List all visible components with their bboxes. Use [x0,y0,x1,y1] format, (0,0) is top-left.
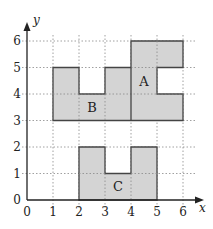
y-tick-6: 6 [13,34,21,48]
y-tick-3: 3 [13,114,21,128]
y-axis-arrow-icon [24,22,31,31]
y-tick-2: 2 [13,140,21,154]
x-tick-2: 2 [75,205,83,219]
shape-label-b: B [87,100,97,115]
x-tick-4: 4 [127,205,135,219]
y-tick-1: 1 [13,167,21,181]
y-tick-5: 5 [13,61,21,75]
coordinate-grid-figure: y x 6 5 4 3 2 1 0 0 1 2 3 4 5 6 A B C [0,0,213,229]
shape-label-a: A [138,74,149,89]
x-tick-6: 6 [179,205,187,219]
x-tick-5: 5 [153,205,161,219]
x-axis-label: x [199,201,206,215]
y-tick-4: 4 [13,87,21,101]
x-tick-3: 3 [101,205,109,219]
x-tick-0: 0 [23,205,31,219]
shape-label-c: C [113,179,123,194]
y-axis-label: y [32,13,40,27]
y-tick-0: 0 [13,193,21,207]
shape-ab [53,41,183,121]
x-tick-1: 1 [49,205,57,219]
